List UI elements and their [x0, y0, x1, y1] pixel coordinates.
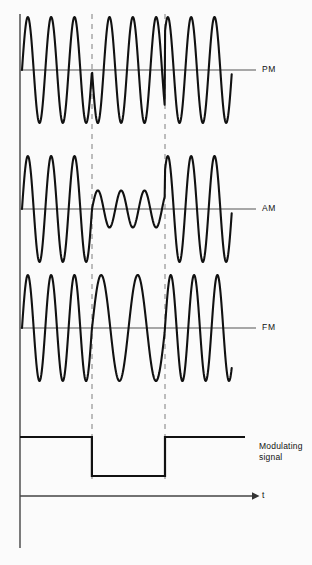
time-axis-label: t [262, 490, 265, 500]
pm-label: PM [262, 64, 276, 74]
modulating-signal-label: Modulating signal [259, 441, 303, 463]
figure-background [0, 0, 312, 565]
modulation-figure [0, 0, 312, 565]
fm-label: FM [262, 322, 276, 332]
am-label: AM [262, 203, 276, 213]
